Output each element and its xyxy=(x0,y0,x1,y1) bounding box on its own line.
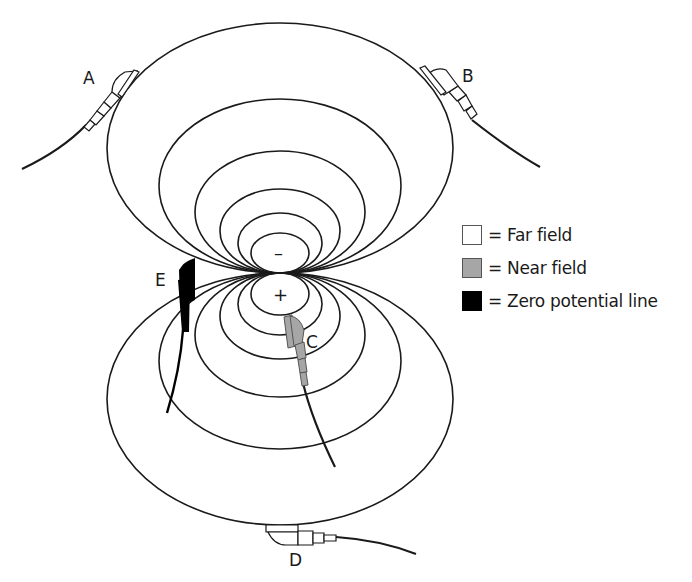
legend-item-zero-potential: = Zero potential line xyxy=(462,284,658,317)
positive-pole-sign: + xyxy=(273,284,288,305)
electrode-a-cable xyxy=(22,125,86,169)
electrode-c-label: C xyxy=(306,332,318,352)
legend-label: = Zero potential line xyxy=(488,291,658,311)
negative-pole-sign: – xyxy=(274,242,283,263)
electrode-d-cable xyxy=(336,537,416,554)
lower-isopotential-lines xyxy=(107,273,453,525)
legend-label: = Near field xyxy=(488,258,587,278)
electrode-a-label: A xyxy=(83,68,95,88)
electrode-b-cable xyxy=(472,120,540,167)
electrode-e-label: E xyxy=(155,270,166,290)
zero-potential-swatch xyxy=(462,291,482,311)
legend-item-near-field: = Near field xyxy=(462,251,658,284)
electrode-e xyxy=(167,258,195,413)
upper-isopotential-lines xyxy=(107,23,453,273)
legend: = Far field = Near field = Zero potentia… xyxy=(462,218,658,317)
electrode-a xyxy=(22,70,139,169)
upper-isopotential-1 xyxy=(107,23,453,273)
electrode-e-cable xyxy=(167,330,183,413)
legend-label: = Far field xyxy=(488,225,572,245)
electrode-b xyxy=(420,66,540,167)
electrode-d-label: D xyxy=(289,550,302,570)
electrode-c-cable xyxy=(303,383,335,467)
lower-isopotential-1 xyxy=(107,273,453,525)
far-field-swatch xyxy=(462,225,482,245)
near-field-swatch xyxy=(462,258,482,278)
legend-item-far-field: = Far field xyxy=(462,218,658,251)
electrode-b-label: B xyxy=(462,66,474,86)
